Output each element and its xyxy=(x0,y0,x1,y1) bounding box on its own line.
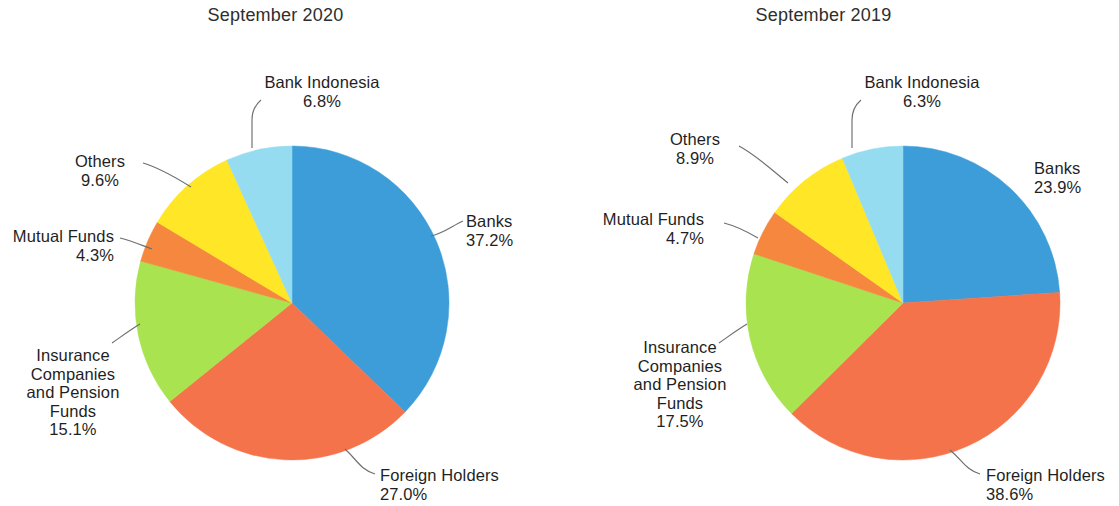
pie-slice-label: Mutual Funds 4.7% xyxy=(590,210,704,247)
pie-slice-label: Mutual Funds 4.3% xyxy=(0,227,114,264)
pie-slice-label: Bank Indonesia 6.3% xyxy=(849,73,995,110)
pie-slice-label: Others 8.9% xyxy=(658,130,732,167)
pie-slices-group xyxy=(746,146,1060,460)
chart-panel-september-2020: September 2020 Banks 37.2%Foreign Holder… xyxy=(0,0,559,506)
leader-line xyxy=(950,450,980,474)
pie-slice-label: Banks 23.9% xyxy=(1034,159,1081,196)
pie-slice-label: Banks 37.2% xyxy=(466,212,513,249)
pie-slice-label: Bank Indonesia 6.8% xyxy=(249,73,395,110)
leader-line xyxy=(724,223,758,238)
pie-slice-label: Insurance Companies and Pension Funds 17… xyxy=(617,338,743,431)
leader-line xyxy=(345,449,375,474)
pie-slice-label: Foreign Holders 38.6% xyxy=(986,466,1105,503)
chart-panel-september-2019: September 2019 Banks 23.9%Foreign Holder… xyxy=(560,0,1119,506)
pie-slice-label: Foreign Holders 27.0% xyxy=(380,466,499,503)
pie-slice-label: Insurance Companies and Pension Funds 15… xyxy=(10,346,136,439)
pie-slices-group xyxy=(135,146,449,460)
figure-root: September 2020 Banks 37.2%Foreign Holder… xyxy=(0,0,1119,506)
leader-line xyxy=(143,163,191,187)
pie-slice-label: Others 9.6% xyxy=(63,152,137,189)
leader-line xyxy=(739,146,788,183)
leader-line xyxy=(431,221,463,236)
leader-line xyxy=(112,324,140,343)
